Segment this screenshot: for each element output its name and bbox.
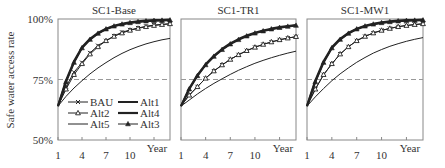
x-axis-title: Year <box>147 142 168 154</box>
x-tick-label: 4 <box>79 149 85 161</box>
panel-sc1-mw1: SC1-MW114710Year <box>304 4 425 161</box>
legend-label: Alt5 <box>90 118 110 130</box>
x-tick-label: 1 <box>178 149 184 161</box>
series-alt5 <box>307 38 423 107</box>
x-tick-label: 7 <box>354 149 360 161</box>
chart-panels: SC1-Base14710YearSC1-TR114710YearSC1-MW1… <box>55 4 425 161</box>
legend-entry-alt3: Alt3 <box>118 118 160 130</box>
series-alt5 <box>181 51 296 106</box>
series-bau <box>181 37 296 106</box>
panel-title: SC1-MW1 <box>341 4 389 16</box>
legend-label: Alt3 <box>140 118 160 130</box>
x-tick-label: 1 <box>55 149 61 161</box>
x-tick-label: 7 <box>103 149 109 161</box>
x-tick-label: 4 <box>329 149 335 161</box>
x-tick-label: 4 <box>203 149 209 161</box>
x-tick-label: 10 <box>376 149 388 161</box>
x-tick-label: 10 <box>125 149 137 161</box>
series-alt2 <box>181 37 296 106</box>
x-tick-label: 1 <box>304 149 310 161</box>
marker-triangle-open <box>76 110 81 114</box>
legend-entry-alt5: Alt5 <box>68 118 110 130</box>
panel-title: SC1-TR1 <box>217 4 259 16</box>
x-axis-title: Year <box>273 142 294 154</box>
y-tick-label: 100% <box>27 13 53 25</box>
panel-title: SC1-Base <box>92 4 136 16</box>
y-axis-label: Safe water access rate <box>4 31 16 128</box>
legend: BAUAlt1Alt2Alt4Alt5Alt3 <box>68 96 160 130</box>
x-tick-label: 7 <box>228 149 234 161</box>
chart-figure: Safe water access rate 50%75%100% SC1-Ba… <box>0 0 445 168</box>
panel-sc1-base: SC1-Base14710Year <box>55 4 172 161</box>
y-tick-label: 75% <box>33 74 53 86</box>
x-tick-label: 10 <box>249 149 261 161</box>
y-axis-ticks: 50%75%100% <box>27 13 53 146</box>
panel-sc1-tr1: SC1-TR114710Year <box>178 4 298 161</box>
x-axis-title: Year <box>400 142 421 154</box>
y-tick-label: 50% <box>33 134 53 146</box>
y-axis-title: Safe water access rate <box>4 31 16 128</box>
